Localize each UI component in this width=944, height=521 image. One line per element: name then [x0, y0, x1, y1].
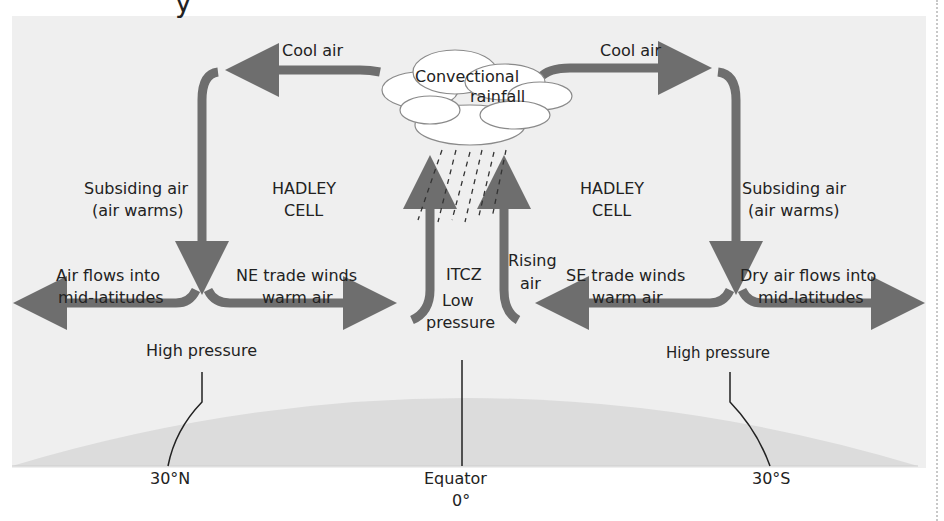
dry-air-2: mid-latitudes: [758, 287, 864, 309]
ne-trade-2: warm air: [262, 287, 333, 309]
cool-air-arrow-right: [540, 68, 685, 78]
subsiding-arrow-right: [718, 72, 736, 268]
se-trade-2: warm air: [592, 287, 663, 309]
subsiding-left-1: Subsiding air: [84, 178, 188, 200]
lat-30n-label: 30°N: [150, 468, 190, 490]
rising-arrow-left: [412, 182, 430, 320]
cool-air-label-right: Cool air: [600, 40, 661, 62]
cloud-label-1: Convectional: [415, 66, 519, 88]
air-flows-left-1: Air flows into: [56, 265, 160, 287]
subsiding-arrow-left: [202, 72, 218, 268]
equator-degree-label: 0°: [452, 490, 470, 512]
dry-air-1: Dry air flows into: [740, 265, 876, 287]
subsiding-right-2: (air warms): [748, 200, 840, 222]
cool-air-arrow-left: [252, 70, 380, 72]
low-pressure-1: Low: [442, 290, 474, 312]
equator-label: Equator: [424, 468, 487, 490]
high-pressure-left: High pressure: [146, 340, 257, 362]
hadley-right-2: CELL: [592, 200, 631, 222]
earth-surface: [12, 398, 918, 466]
se-trade-1: SE trade winds: [566, 265, 685, 287]
rising-air-2: air: [520, 273, 541, 295]
lat-30s-label: 30°S: [752, 468, 791, 490]
cool-air-label-left: Cool air: [282, 40, 343, 62]
cloud-label-2: rainfall: [470, 86, 525, 108]
hadley-left-2: CELL: [284, 200, 323, 222]
rising-air-1: Rising: [508, 250, 557, 272]
hadley-left-1: HADLEY: [272, 178, 336, 200]
low-pressure-2: pressure: [426, 312, 495, 334]
itcz-label: ITCZ: [446, 264, 482, 286]
hadley-right-1: HADLEY: [580, 178, 644, 200]
air-flows-left-2: mid-latitudes: [58, 287, 164, 309]
subsiding-right-1: Subsiding air: [742, 178, 846, 200]
ne-trade-1: NE trade winds: [236, 265, 357, 287]
high-pressure-right: High pressure: [666, 342, 770, 364]
subsiding-left-2: (air warms): [92, 200, 184, 222]
